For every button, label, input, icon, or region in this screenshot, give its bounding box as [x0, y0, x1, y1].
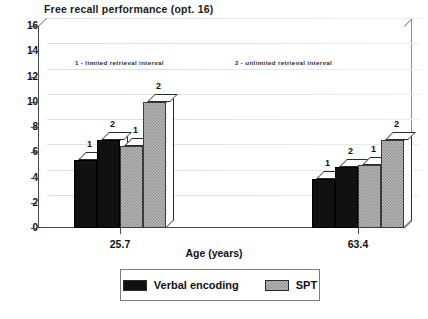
gridline — [47, 69, 421, 70]
y-tick-mark — [31, 51, 37, 52]
plot-area: 1 - limited retrieval interval 2 - unlim… — [38, 26, 404, 228]
x-axis-title: Age (years) — [0, 247, 428, 259]
y-tick-mark — [31, 228, 37, 229]
y-tick-mark — [31, 178, 37, 179]
legend: Verbal encodingSPT — [120, 269, 320, 301]
plot-3d-edge-bottom-right — [404, 220, 413, 229]
legend-label: SPT — [296, 279, 317, 291]
gridline — [47, 94, 421, 95]
y-tick-mark — [31, 102, 37, 103]
y-tick-mark — [31, 203, 37, 204]
y-tick-mark — [31, 26, 37, 27]
y-tick-mark — [31, 77, 37, 78]
chart-container: Free recall performance (opt. 16) 1 - li… — [0, 0, 428, 319]
y-tick-mark — [31, 152, 37, 153]
annotation-limited-retrieval: 1 - limited retrieval interval — [75, 59, 164, 66]
gridline — [47, 170, 421, 171]
gridline — [47, 119, 421, 120]
legend-swatch — [123, 280, 147, 291]
legend-swatch — [265, 280, 289, 291]
gridline — [47, 144, 421, 145]
y-axis: 0246810121416 — [0, 0, 38, 319]
gridline — [47, 18, 421, 19]
annotation-unlimited-retrieval: 2 - unlimited retrieval interval — [235, 59, 332, 66]
y-tick-mark — [31, 127, 37, 128]
x-tick-mark — [358, 228, 359, 234]
x-tick-mark — [120, 228, 121, 234]
legend-item-verbal-encoding: Verbal encoding — [123, 279, 239, 291]
legend-item-spt: SPT — [265, 279, 317, 291]
legend-label: Verbal encoding — [154, 279, 239, 291]
chart-title: Free recall performance (opt. 16) — [44, 3, 213, 15]
gridline — [47, 43, 421, 44]
gridline — [47, 195, 421, 196]
